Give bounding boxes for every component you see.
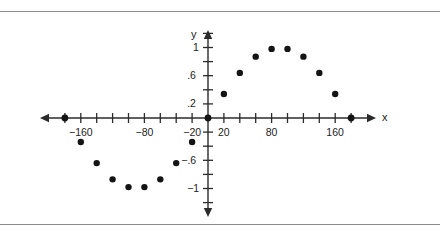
- data-point: [109, 176, 115, 182]
- x-axis-name: x: [382, 112, 388, 123]
- y-tick-label: −.6: [181, 155, 196, 166]
- data-point: [157, 176, 163, 182]
- plot-area: −160−80−2020801601.6.2−.6−1yx: [0, 12, 440, 224]
- data-point: [300, 53, 306, 59]
- data-point: [189, 139, 195, 145]
- data-point: [332, 91, 338, 97]
- x-tick-label: −160: [69, 127, 93, 138]
- data-point: [316, 70, 322, 76]
- scatter-plot-svg: [0, 12, 440, 224]
- endpoint-marker: [62, 115, 69, 122]
- data-point: [78, 139, 84, 145]
- x-tick-label: 20: [218, 127, 230, 138]
- x-axis-right-arrow-icon: [367, 114, 376, 122]
- data-point: [141, 184, 147, 190]
- data-point: [173, 160, 179, 166]
- data-point: [284, 46, 290, 52]
- data-point: [237, 70, 243, 76]
- data-point: [253, 53, 259, 59]
- y-tick-label: .6: [187, 70, 196, 81]
- data-point: [125, 184, 131, 190]
- y-axis-name: y: [191, 29, 197, 40]
- y-tick-label: 1: [193, 42, 199, 53]
- y-axis-up-arrow-icon: [204, 30, 212, 39]
- y-tick-label: −1: [187, 183, 199, 194]
- x-tick-label: −20: [183, 127, 201, 138]
- y-axis-down-arrow-icon: [204, 208, 212, 217]
- x-tick-label: −80: [136, 127, 154, 138]
- figure-container: −160−80−2020801601.6.2−.6−1yx: [0, 0, 440, 235]
- x-tick-label: 160: [326, 127, 344, 138]
- data-point: [221, 91, 227, 97]
- x-tick-label: 80: [266, 127, 278, 138]
- bottom-divider-rule: [0, 224, 440, 225]
- endpoint-marker: [348, 115, 355, 122]
- x-axis-left-arrow-icon: [40, 114, 49, 122]
- y-tick-label: .2: [187, 98, 196, 109]
- data-point: [268, 46, 274, 52]
- data-point: [94, 160, 100, 166]
- endpoint-marker: [205, 115, 212, 122]
